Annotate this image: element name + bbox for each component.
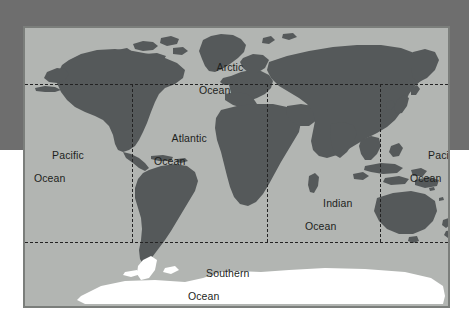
new-zealand-shape [442, 218, 448, 238]
backdrop-top-right-block [450, 0, 469, 150]
graticule-vertical-center [267, 84, 268, 242]
label-southern-ocean: Southern Ocean [188, 256, 250, 308]
label-pacific-ocean-east-line2: Ocean [410, 173, 450, 185]
backdrop-top-band [0, 0, 469, 27]
scandinavia-shape [240, 54, 269, 73]
label-indian-ocean-line1: Indian [323, 197, 352, 209]
label-atlantic-ocean-line2: Ocean [154, 156, 207, 168]
world-map-figure: Arctic Ocean Pacific Ocean Atlantic Ocea… [0, 0, 469, 328]
antarctic-peninsula-shape [137, 256, 157, 280]
label-indian-ocean-line2: Ocean [305, 221, 352, 233]
label-pacific-ocean-east: Pacific Ocean [410, 138, 450, 208]
label-southern-ocean-line1: Southern [206, 267, 249, 279]
label-indian-ocean: Indian Ocean [305, 186, 352, 256]
backdrop-bottom-right-white [450, 150, 469, 328]
backdrop-bottom-left-white [0, 150, 24, 328]
graticule-vertical-west [132, 84, 133, 242]
antarctica-group [77, 256, 445, 304]
label-arctic-ocean-line2: Ocean [199, 85, 243, 97]
label-southern-ocean-line2: Ocean [188, 291, 250, 303]
label-atlantic-ocean-line1: Atlantic [172, 132, 207, 144]
label-pacific-ocean-west-line2: Ocean [34, 173, 84, 185]
label-arctic-ocean-line1: Arctic [217, 61, 244, 73]
label-pacific-ocean-east-line1: Pacific [428, 149, 450, 161]
map-frame: Arctic Ocean Pacific Ocean Atlantic Ocea… [23, 26, 450, 308]
backdrop-bottom-white-strip [0, 310, 469, 328]
label-arctic-ocean: Arctic Ocean [199, 50, 243, 120]
label-atlantic-ocean: Atlantic Ocean [154, 121, 207, 191]
label-pacific-ocean-west-line1: Pacific [52, 149, 84, 161]
label-pacific-ocean-west: Pacific Ocean [34, 138, 84, 208]
philippines-shape [389, 143, 403, 157]
svalbard-shape [262, 33, 297, 44]
graticule-vertical-east [380, 84, 381, 242]
northeast-asia-shape [411, 49, 439, 82]
central-america-shape [123, 152, 149, 171]
backdrop-top-left-block [0, 0, 24, 150]
graticule-horizontal-south [25, 242, 448, 243]
southeast-asia-shape [359, 136, 381, 160]
aleutian-islands-shape [35, 86, 61, 92]
